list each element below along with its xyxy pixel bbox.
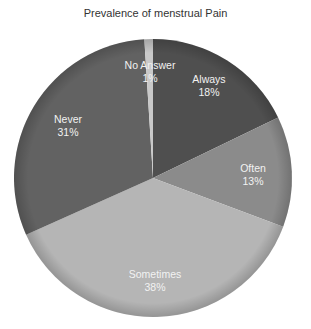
- label-always-pct: 18%: [198, 86, 219, 98]
- label-no-answer-pct: 1%: [142, 72, 157, 84]
- label-sometimes-name: Sometimes: [129, 268, 182, 280]
- label-often-pct: 13%: [242, 175, 263, 187]
- label-sometimes-pct: 38%: [144, 281, 165, 293]
- pie-chart: Always 18% Often 13% Sometimes 38% Never…: [0, 0, 311, 329]
- label-always-name: Always: [192, 73, 225, 85]
- slice-label-never: Never 31%: [54, 113, 83, 138]
- label-never-pct: 31%: [57, 126, 78, 138]
- label-often-name: Often: [240, 162, 266, 174]
- label-never-name: Never: [54, 113, 83, 125]
- slice-label-often: Often 13%: [240, 162, 266, 187]
- label-no-answer-name: No Answer: [125, 59, 176, 71]
